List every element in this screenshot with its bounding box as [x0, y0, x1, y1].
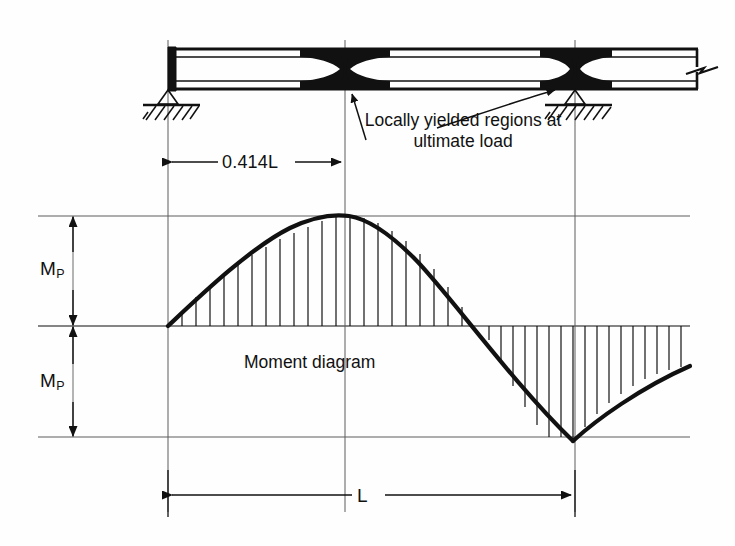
dimension-L — [168, 470, 575, 517]
moment-diagram-caption: Moment diagram — [244, 352, 375, 373]
break-symbol — [686, 67, 718, 74]
midspan-plastic-hinge — [300, 49, 390, 89]
dimension-label-0414L: 0.414L — [222, 152, 278, 173]
mp-label-positive: MP — [40, 258, 64, 280]
annotation-line-3: load — [480, 131, 513, 151]
mp-label-negative: MP — [40, 370, 64, 392]
yielded-region-annotation: Locally yielded regions at ultimate load — [363, 110, 563, 152]
mp-label-negative-sub: P — [56, 379, 64, 393]
ground-hatch-left — [143, 106, 199, 120]
moment-curve-main — [168, 215, 573, 441]
moment-curve — [168, 215, 690, 441]
moment-hatching-positive — [182, 216, 462, 326]
pinned-support-left — [143, 90, 200, 120]
figure-canvas: Locally yielded regions at ultimate load… — [0, 0, 735, 546]
annotation-line-1: Locally yielded — [365, 110, 480, 130]
beam-left-end-block — [168, 47, 176, 91]
moment-curve-tail — [573, 366, 690, 441]
beam-flanges — [168, 47, 698, 91]
mp-label-negative-text: M — [40, 370, 56, 391]
mp-label-positive-text: M — [40, 258, 56, 279]
diagram-vector-layer — [0, 0, 735, 546]
mp-label-positive-sub: P — [56, 267, 64, 281]
dimension-label-L: L — [357, 485, 368, 507]
support-plastic-hinge — [540, 49, 612, 89]
